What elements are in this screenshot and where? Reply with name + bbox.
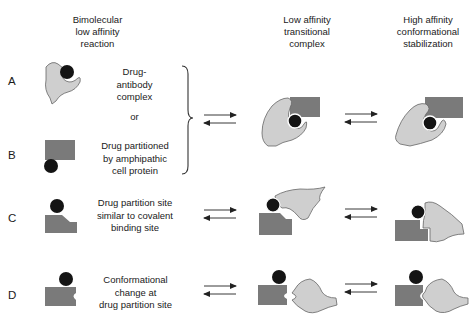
drug-circle	[50, 199, 64, 213]
protein-drug-c	[45, 199, 77, 233]
antibody-shape	[292, 279, 337, 313]
drug-circle	[60, 65, 74, 79]
protein-drug-d	[45, 272, 76, 306]
protein-site-shape	[45, 287, 76, 306]
protein-site-shape	[395, 285, 423, 306]
equilibrium-arrows-d1	[204, 286, 236, 294]
diagram-canvas	[0, 0, 474, 322]
drug-circle	[411, 205, 425, 219]
equilibrium-arrows-c2	[345, 209, 377, 217]
equilibrium-arrows-a2	[345, 114, 377, 122]
drug-circle	[423, 116, 437, 130]
antibody-shape	[275, 187, 325, 220]
drug-circle	[59, 272, 73, 286]
stabilized-complex-a	[396, 97, 464, 146]
antibody-shape	[423, 202, 464, 242]
equilibrium-arrows-1	[204, 115, 236, 123]
protein-site-shape	[258, 285, 287, 305]
protein-drug-b	[44, 140, 75, 173]
antibody-drug-a	[46, 63, 81, 104]
protein-rect	[45, 140, 75, 160]
transitional-complex-d	[258, 270, 337, 313]
drug-circle	[44, 159, 58, 173]
protein-site-shape	[259, 213, 292, 235]
equilibrium-arrows-c1	[204, 210, 236, 218]
antibody-shape	[423, 279, 469, 313]
protein-rect	[425, 97, 463, 118]
protein-site-shape	[45, 215, 77, 233]
drug-circle	[288, 114, 302, 128]
grouping-brace	[182, 66, 193, 174]
transitional-complex-c	[259, 187, 325, 235]
equilibrium-arrows-d2	[345, 284, 377, 292]
drug-circle	[272, 270, 286, 284]
stabilized-complex-d	[395, 270, 468, 313]
transitional-complex-a	[262, 97, 320, 146]
drug-circle	[409, 270, 423, 284]
drug-circle	[266, 198, 280, 212]
stabilized-complex-c	[395, 202, 464, 242]
